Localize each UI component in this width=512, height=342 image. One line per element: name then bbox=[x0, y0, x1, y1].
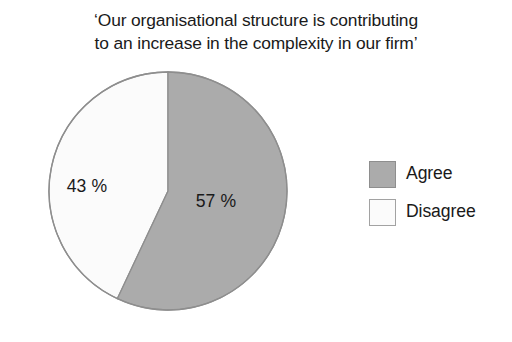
legend-swatch-agree-icon bbox=[369, 161, 396, 188]
legend-label-disagree: Disagree bbox=[406, 203, 476, 221]
legend-item-agree[interactable]: Agree bbox=[369, 160, 476, 188]
pie-label-disagree: 43 % bbox=[54, 176, 120, 197]
legend-swatch-disagree-icon bbox=[369, 199, 396, 226]
chart-legend: Agree Disagree bbox=[369, 160, 476, 226]
pie-chart-figure: ‘Our organisational structure is contrib… bbox=[0, 0, 512, 342]
legend-item-disagree[interactable]: Disagree bbox=[369, 198, 476, 226]
legend-label-agree: Agree bbox=[406, 165, 452, 183]
pie-label-agree: 57 % bbox=[183, 191, 249, 212]
